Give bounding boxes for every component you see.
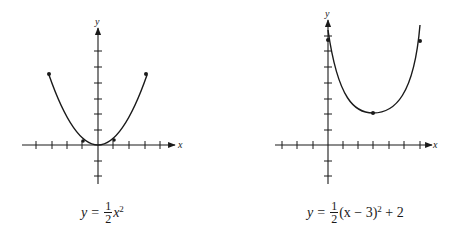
eq-lhs: y	[307, 205, 313, 221]
eq-exponent: 2	[119, 204, 124, 214]
equation-left: y = 1 2 x 2	[81, 200, 124, 225]
eq-exponent: 2	[377, 204, 382, 214]
y-axis-label: y	[324, 8, 330, 19]
x-axis-label: x	[432, 139, 438, 150]
eq-body: (x − 3)	[339, 205, 377, 221]
parabola-curve	[328, 25, 420, 113]
eq-fraction: 1 2	[330, 200, 338, 225]
eq-equals: =	[317, 205, 325, 221]
eq-fraction: 1 2	[104, 200, 112, 225]
marked-points	[326, 38, 422, 115]
equation-right: y = 1 2 (x − 3) 2 + 2	[307, 200, 404, 225]
y-axis-label: y	[94, 16, 100, 27]
eq-denominator: 2	[105, 213, 111, 225]
eq-denominator: 2	[331, 213, 337, 225]
eq-tail: + 2	[382, 205, 404, 221]
x-axis-label: x	[177, 139, 183, 150]
eq-lhs: y	[81, 205, 87, 221]
eq-equals: =	[91, 205, 99, 221]
graph-right: x y	[275, 8, 438, 184]
graph-left: x y	[22, 16, 183, 184]
